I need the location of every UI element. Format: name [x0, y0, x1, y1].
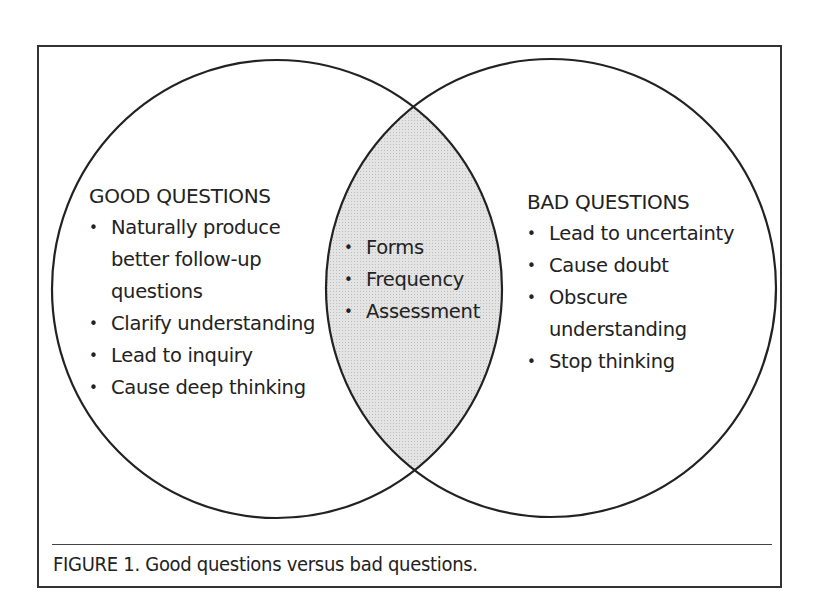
list-item: Assessment — [344, 296, 494, 328]
good-questions-title: GOOD QUESTIONS — [89, 180, 339, 212]
list-item: Naturally produce better follow-up quest… — [89, 212, 339, 308]
bad-questions-list: Lead to uncertainty Cause doubt Obscure … — [527, 218, 767, 378]
list-item: Stop thinking — [527, 346, 767, 378]
list-item: Clarify understanding — [89, 308, 339, 340]
shared-block: Forms Frequency Assessment — [344, 232, 494, 328]
caption-label: FIGURE 1 — [53, 552, 134, 576]
shared-list: Forms Frequency Assessment — [344, 232, 494, 328]
good-questions-list: Naturally produce better follow-up quest… — [89, 212, 339, 404]
list-item: Cause deep thinking — [89, 372, 339, 404]
list-item: Frequency — [344, 264, 494, 296]
list-item: Lead to inquiry — [89, 340, 339, 372]
list-item: Cause doubt — [527, 250, 767, 282]
caption-divider — [52, 544, 772, 545]
bad-questions-block: BAD QUESTIONS Lead to uncertainty Cause … — [527, 186, 767, 378]
list-item: Obscure understanding — [527, 282, 767, 346]
figure-caption: FIGURE 1. Good questions versus bad ques… — [53, 552, 478, 576]
caption-text: . Good questions versus bad questions. — [134, 552, 477, 576]
list-item: Forms — [344, 232, 494, 264]
list-item: Lead to uncertainty — [527, 218, 767, 250]
bad-questions-title: BAD QUESTIONS — [527, 186, 767, 218]
good-questions-block: GOOD QUESTIONS Naturally produce better … — [89, 180, 339, 404]
